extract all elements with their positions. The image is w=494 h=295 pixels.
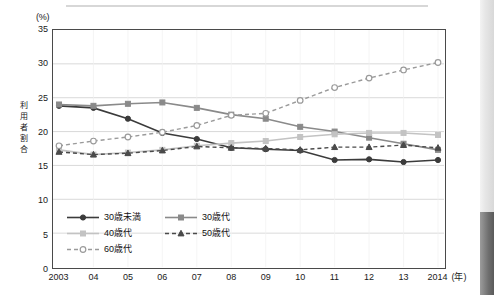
y-tick-label: 15 xyxy=(38,161,48,171)
data-point-marker xyxy=(401,159,406,164)
line-chart: (%) 利用者割合 05101520253035 200304050607080… xyxy=(0,0,468,295)
x-tick-label: 04 xyxy=(88,272,98,283)
data-point-marker xyxy=(332,85,338,91)
legend-swatch xyxy=(164,212,198,223)
legend-item[interactable]: 60歳代 xyxy=(66,243,132,256)
y-tick-label: 30 xyxy=(38,58,48,68)
data-point-marker xyxy=(228,113,234,119)
series-2 xyxy=(57,100,441,152)
data-point-marker xyxy=(194,136,199,141)
legend-label: 40歳代 xyxy=(104,228,132,239)
data-point-marker xyxy=(91,138,97,144)
x-tick-label: 11 xyxy=(330,272,339,283)
y-axis-unit-label: (%) xyxy=(36,12,49,22)
data-point-marker xyxy=(367,130,372,135)
x-axis-unit-label: (年) xyxy=(452,272,467,283)
data-point-marker xyxy=(366,157,371,162)
x-tick-label: 05 xyxy=(123,272,133,283)
y-axis-tick-labels: 05101520253035 xyxy=(26,24,48,274)
data-point-marker xyxy=(298,124,303,129)
data-point-marker xyxy=(263,116,268,121)
legend-item[interactable]: 50歳代 xyxy=(164,227,230,240)
data-point-marker xyxy=(401,67,407,73)
legend-item[interactable]: 30歳未満 xyxy=(66,211,141,224)
data-point-marker xyxy=(401,130,406,135)
scanned-page: (%) 利用者割合 05101520253035 200304050607080… xyxy=(0,0,494,295)
x-tick-label: 13 xyxy=(399,272,409,283)
legend-label: 30歳未満 xyxy=(104,212,141,223)
data-point-marker xyxy=(194,105,199,110)
data-point-marker xyxy=(125,134,131,140)
x-tick-label: 09 xyxy=(261,272,271,283)
x-axis-tick-labels: 2003040506070809101112132014(年) xyxy=(40,272,460,288)
legend-item[interactable]: 40歳代 xyxy=(66,227,132,240)
legend-label: 60歳代 xyxy=(104,244,132,255)
x-tick-label: 07 xyxy=(192,272,202,283)
y-tick-label: 5 xyxy=(43,230,48,240)
data-point-marker xyxy=(57,102,62,107)
y-tick-label: 35 xyxy=(38,24,48,34)
legend-swatch xyxy=(164,228,198,239)
data-point-marker xyxy=(332,157,337,162)
series-4 xyxy=(56,142,441,157)
data-point-marker xyxy=(80,247,86,253)
x-tick-label: 12 xyxy=(364,272,374,283)
data-point-marker xyxy=(160,100,165,105)
y-tick-label: 25 xyxy=(38,93,48,103)
data-point-marker xyxy=(435,60,441,66)
series-1 xyxy=(56,103,440,164)
page-edge-dark-band xyxy=(480,212,494,295)
x-tick-label: 06 xyxy=(157,272,167,283)
y-tick-label: 20 xyxy=(38,127,48,137)
x-tick-label: 08 xyxy=(226,272,236,283)
data-point-marker xyxy=(125,101,130,106)
data-point-marker xyxy=(332,132,337,137)
data-point-marker xyxy=(436,132,441,137)
legend-item[interactable]: 30歳代 xyxy=(164,211,230,224)
data-point-marker xyxy=(435,157,440,162)
data-point-marker xyxy=(125,116,130,121)
x-tick-label: 2014 xyxy=(428,272,448,283)
series-3 xyxy=(57,130,441,157)
data-point-marker xyxy=(56,143,62,149)
data-point-marker xyxy=(194,123,200,129)
data-point-marker xyxy=(160,129,166,135)
legend-label: 30歳代 xyxy=(202,212,230,223)
data-point-marker xyxy=(91,103,96,108)
y-tick-label: 10 xyxy=(38,195,48,205)
x-tick-label: 2003 xyxy=(49,272,69,283)
data-point-marker xyxy=(366,75,372,81)
data-point-marker xyxy=(263,139,268,144)
data-point-marker xyxy=(179,215,184,220)
x-tick-label: 10 xyxy=(295,272,305,283)
data-point-marker xyxy=(81,231,86,236)
chart-legend: 30歳未満30歳代40歳代50歳代60歳代 xyxy=(66,211,251,259)
series-line xyxy=(59,133,438,155)
data-point-marker xyxy=(263,110,269,116)
data-point-marker xyxy=(297,98,303,104)
data-point-marker xyxy=(80,215,85,220)
legend-swatch xyxy=(66,244,100,255)
legend-label: 50歳代 xyxy=(202,228,230,239)
legend-swatch xyxy=(66,228,100,239)
data-point-marker xyxy=(298,134,303,139)
series-line xyxy=(59,145,438,154)
legend-swatch xyxy=(66,212,100,223)
data-point-marker xyxy=(178,230,184,236)
